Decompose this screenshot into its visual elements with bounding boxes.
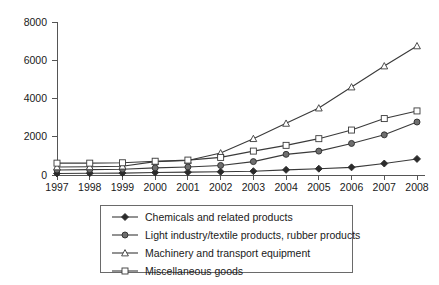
marker-circle	[349, 140, 355, 146]
legend-label: Machinery and transport equipment	[145, 246, 310, 260]
marker-triangle	[315, 105, 322, 111]
legend-item[interactable]: Chemicals and related products	[111, 209, 352, 224]
x-tick-label: 2003	[242, 181, 266, 193]
x-tick-label: 2008	[405, 181, 429, 193]
legend-marker-icon	[111, 210, 139, 224]
y-axis-ticks: 02000400060008000	[24, 16, 57, 181]
marker-square	[218, 154, 224, 160]
marker-square	[283, 142, 289, 148]
data-series	[54, 43, 421, 170]
marker-square	[185, 157, 191, 163]
marker-circle	[218, 162, 224, 168]
chart-figure: 02000400060008000 1997199819992000200120…	[0, 0, 439, 285]
y-tick-label: 0	[41, 169, 47, 181]
legend-label: Chemicals and related products	[145, 210, 293, 224]
marker-circle	[414, 119, 420, 125]
marker-diamond	[381, 160, 388, 167]
y-tick-label: 6000	[24, 54, 48, 66]
x-tick-label: 1997	[45, 181, 69, 193]
legend-marker-icon	[111, 228, 139, 242]
marker-triangle	[381, 63, 388, 69]
series-line	[57, 111, 417, 163]
series-line	[57, 46, 417, 167]
marker-square	[119, 160, 125, 166]
marker-diamond	[414, 155, 421, 162]
marker-diamond	[283, 166, 290, 173]
y-tick-label: 4000	[24, 92, 48, 104]
marker-square	[381, 116, 387, 122]
series-group	[54, 43, 421, 177]
marker-circle	[152, 165, 158, 171]
legend-marker-icon	[111, 264, 139, 278]
x-tick-label: 2006	[340, 181, 364, 193]
x-tick-label: 2005	[307, 181, 331, 193]
marker-circle	[283, 151, 289, 157]
marker-square	[122, 268, 128, 274]
legend-item[interactable]: Machinery and transport equipment	[111, 245, 352, 260]
marker-triangle	[250, 135, 257, 141]
marker-square	[250, 148, 256, 154]
marker-triangle	[283, 120, 290, 126]
x-axis-ticks: 1997199819992000200120022003200420052006…	[45, 175, 429, 193]
marker-diamond	[122, 213, 129, 220]
chart-legend: Chemicals and related productsLight indu…	[100, 205, 353, 273]
marker-triangle	[414, 43, 421, 49]
x-tick-label: 2000	[144, 181, 168, 193]
marker-square	[316, 136, 322, 142]
marker-diamond	[348, 164, 355, 171]
legend-marker-icon	[111, 246, 139, 260]
x-tick-label: 2002	[209, 181, 233, 193]
legend-item[interactable]: Miscellaneous goods	[111, 263, 352, 278]
marker-triangle	[348, 84, 355, 90]
marker-diamond	[250, 168, 257, 175]
marker-square	[54, 160, 60, 166]
marker-circle	[316, 148, 322, 154]
marker-circle	[122, 232, 128, 238]
y-tick-label: 8000	[24, 16, 48, 28]
marker-circle	[381, 132, 387, 138]
marker-diamond	[315, 165, 322, 172]
x-tick-label: 1998	[78, 181, 102, 193]
y-tick-label: 2000	[24, 130, 48, 142]
x-tick-label: 2004	[274, 181, 298, 193]
legend-label: Light industry/textile products, rubber …	[145, 228, 360, 242]
marker-diamond	[217, 168, 224, 175]
x-tick-label: 2001	[176, 181, 200, 193]
marker-square	[152, 158, 158, 164]
marker-square	[414, 108, 420, 114]
x-tick-label: 2007	[373, 181, 397, 193]
x-tick-label: 1999	[111, 181, 135, 193]
data-series	[54, 108, 420, 166]
marker-square	[349, 127, 355, 133]
marker-circle	[250, 159, 256, 165]
marker-square	[87, 160, 93, 166]
legend-item[interactable]: Light industry/textile products, rubber …	[111, 227, 352, 242]
legend-label: Miscellaneous goods	[145, 264, 243, 278]
marker-circle	[185, 164, 191, 170]
